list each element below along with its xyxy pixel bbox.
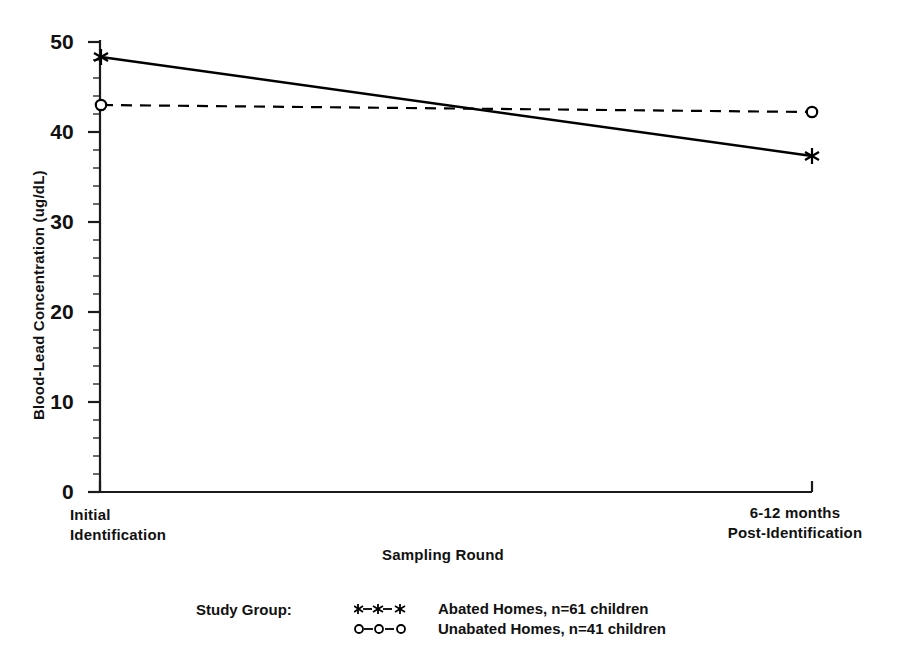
legend-label-unabated-homes: Unabated Homes, n=41 children — [438, 620, 666, 637]
legend-key-asterisk-dashed — [354, 600, 428, 620]
axis-lines — [100, 40, 812, 492]
x-tick-label-initial-line2: Identification — [70, 525, 166, 545]
legend-key-circle-dashed — [354, 620, 428, 640]
series-unabated-point-1 — [807, 107, 817, 117]
y-tick-label-0: 0 — [30, 480, 74, 504]
chart-canvas — [0, 0, 917, 664]
x-axis-title: Sampling Round — [382, 546, 504, 563]
series-unabated-homes — [96, 100, 817, 117]
x-tick-label-initial-identification: Initial Identification — [70, 505, 166, 545]
series-unabated-point-0 — [96, 100, 106, 110]
y-axis-title: Blood-Lead Concentration (ug/dL) — [30, 170, 47, 420]
legend-title: Study Group: — [196, 601, 292, 618]
x-tick-label-post-identification: 6-12 months Post-Identification — [700, 503, 890, 543]
legend-label-abated-homes: Abated Homes, n=61 children — [438, 600, 648, 617]
x-tick-label-post-line1: 6-12 months — [700, 503, 890, 523]
x-tick-label-post-line2: Post-Identification — [700, 523, 890, 543]
y-tick-label-40: 40 — [30, 120, 74, 144]
chart-figure: 50 40 30 20 10 0 Blood-Lead Concentratio… — [0, 0, 917, 664]
chart-legend: Study Group: Abated Homes, n=61 children — [196, 600, 716, 644]
y-tick-label-50: 50 — [30, 30, 74, 54]
x-tick-label-initial-line1: Initial — [70, 505, 166, 525]
